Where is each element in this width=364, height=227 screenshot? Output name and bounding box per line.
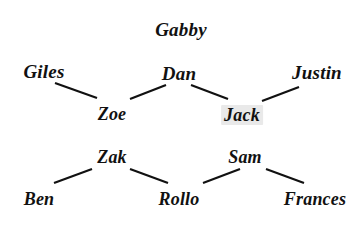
node-frances[interactable]: Frances (284, 190, 346, 208)
node-jack[interactable]: Jack (221, 105, 263, 125)
edge-zak-rollo (130, 169, 168, 183)
node-ben[interactable]: Ben (24, 190, 55, 208)
node-giles[interactable]: Giles (23, 62, 64, 81)
edge-ben-zak (54, 169, 92, 183)
diagram-canvas: GabbyGilesDanJustinZoeJackZakSamBenRollo… (0, 0, 364, 227)
edge-zoe-dan (130, 85, 166, 99)
node-zoe[interactable]: Zoe (98, 105, 127, 123)
node-justin[interactable]: Justin (292, 63, 342, 82)
edge-dan-jack (191, 85, 228, 99)
node-dan[interactable]: Dan (162, 64, 196, 83)
edge-giles-zoe (55, 83, 97, 98)
node-zak[interactable]: Zak (97, 148, 127, 166)
node-sam[interactable]: Sam (228, 148, 262, 166)
node-rollo[interactable]: Rollo (158, 190, 199, 208)
edge-sam-frances (266, 169, 304, 183)
edge-rollo-sam (203, 169, 240, 183)
node-gabby[interactable]: Gabby (155, 20, 207, 39)
edge-jack-justin (262, 87, 299, 101)
